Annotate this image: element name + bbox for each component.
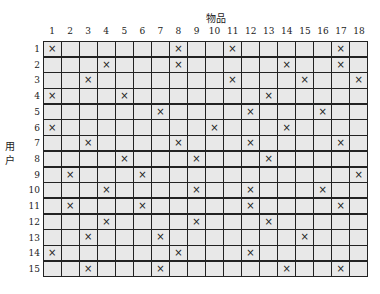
matrix-cell [134,262,151,276]
matrix-cell [152,168,169,182]
matrix-cell [350,215,367,229]
x-mark-icon: × [192,154,200,164]
matrix-cell [170,230,187,244]
row-label: 10 [22,183,40,199]
x-mark-icon: × [246,248,254,258]
matrix-cell [296,42,313,56]
matrix-cell [98,42,115,56]
matrix-cell: × [296,230,313,244]
x-mark-icon: × [318,107,326,117]
matrix-cell [224,136,241,150]
matrix-cell [80,120,97,134]
matrix-cell [152,136,169,150]
matrix-cell [62,262,79,276]
matrix-cell [116,246,133,260]
x-mark-icon: × [264,154,272,164]
matrix-cell [80,246,97,260]
matrix-cell [98,152,115,166]
matrix-cell: × [224,73,241,87]
matrix-cell: × [98,58,115,72]
matrix-cell [80,89,97,103]
matrix-cell [98,230,115,244]
x-mark-icon: × [174,44,182,54]
matrix-cell [224,152,241,166]
matrix-cell: × [170,58,187,72]
x-mark-icon: × [228,75,236,85]
column-label: 5 [115,25,133,37]
column-label: 10 [206,25,224,37]
x-mark-icon: × [282,264,290,274]
matrix-cell [116,73,133,87]
matrix-cell [224,120,241,134]
matrix-cell [152,246,169,260]
matrix-cell [224,230,241,244]
matrix-cell [332,120,349,134]
matrix-cell: × [224,42,241,56]
row-label: 3 [22,72,40,88]
matrix-cell [350,230,367,244]
x-mark-icon: × [84,138,92,148]
x-mark-icon: × [192,217,200,227]
matrix-cell [44,136,61,150]
matrix-cell: × [242,105,259,119]
matrix-cell: × [332,58,349,72]
matrix-cell [260,58,277,72]
matrix-cell [350,58,367,72]
matrix-cell [314,246,331,260]
matrix-cell [98,246,115,260]
row-label: 4 [22,88,40,104]
matrix-cell [134,246,151,260]
matrix-cell [80,152,97,166]
x-mark-icon: × [102,60,110,70]
row-label: 9 [22,167,40,183]
x-mark-icon: × [48,248,56,258]
x-mark-icon: × [174,248,182,258]
matrix-cell [224,262,241,276]
matrix-cell [98,105,115,119]
matrix-cell [206,105,223,119]
matrix-cell [206,89,223,103]
x-mark-icon: × [156,232,164,242]
matrix-cell: × [80,73,97,87]
x-mark-icon: × [355,75,363,85]
matrix-cell [278,42,295,56]
x-mark-icon: × [102,217,110,227]
matrix-cell [116,199,133,213]
matrix-cell [116,42,133,56]
matrix-cell [296,183,313,197]
matrix-cell [278,136,295,150]
column-label: 18 [350,25,368,37]
matrix-cell [44,168,61,182]
matrix-cell [224,89,241,103]
matrix-cell [242,89,259,103]
matrix-cell: × [242,246,259,260]
matrix-cell [350,105,367,119]
matrix-cell [314,215,331,229]
matrix-cell [242,42,259,56]
matrix-cell [188,262,205,276]
matrix-cell: × [332,262,349,276]
matrix-cell: × [314,183,331,197]
matrix-cell [152,215,169,229]
matrix-cell [224,58,241,72]
column-label: 13 [260,25,278,37]
x-mark-icon: × [156,107,164,117]
matrix-cell [44,262,61,276]
user-item-matrix: ××××××××××××××××××××××××××××××××××××××××… [43,41,368,277]
matrix-cell [242,262,259,276]
column-label: 3 [79,25,97,37]
column-label: 15 [296,25,314,37]
x-mark-icon: × [138,201,146,211]
matrix-cell [296,105,313,119]
row-label: 7 [22,135,40,151]
column-labels: 123456789101112131415161718 [43,25,368,37]
matrix-cell [62,246,79,260]
matrix-cell [242,230,259,244]
matrix-cell: × [44,89,61,103]
matrix-cell [134,73,151,87]
x-mark-icon: × [84,75,92,85]
matrix-cell [134,105,151,119]
y-axis-title-char: 用 [4,140,16,154]
matrix-cell [314,230,331,244]
matrix-cell [134,136,151,150]
